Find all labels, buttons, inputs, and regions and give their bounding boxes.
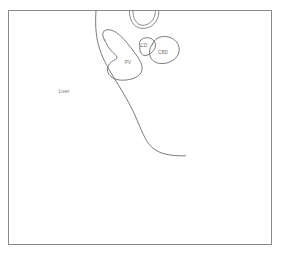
- label-common-bile-duct: CBD: [158, 50, 169, 55]
- figure-container: Liver PV CD CBD: [0, 0, 285, 257]
- label-liver: Liver: [58, 89, 69, 94]
- label-portal-vein: PV: [125, 60, 132, 65]
- anatomy-diagram: Liver PV CD CBD: [0, 0, 285, 257]
- label-cystic-duct: CD: [141, 43, 148, 48]
